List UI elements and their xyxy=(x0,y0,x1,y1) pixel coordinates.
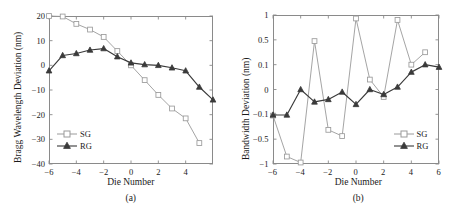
x-tick-label: −2 xyxy=(99,168,108,177)
x-axis-title-a: Die Number xyxy=(14,177,248,187)
filled-triangle-marker-icon xyxy=(394,141,414,151)
x-tick-label: −6 xyxy=(44,168,53,177)
y-tick-label: −1 xyxy=(243,160,269,169)
y-axis-title-a: Bragg Wavelength Deviation (nm) xyxy=(13,32,23,163)
x-tick-label: −4 xyxy=(72,168,81,177)
legend-a: SG RG xyxy=(57,128,92,152)
x-tick-label: 4 xyxy=(409,168,413,177)
legend-item-sg: SG xyxy=(57,128,92,140)
legend-label-rg: RG xyxy=(80,142,92,151)
legend-item-sg: SG xyxy=(394,128,429,140)
panel-a: −6−4−2024−40−30−20−1001020 Bragg Wavelen… xyxy=(0,0,234,212)
legend-b: SG RG xyxy=(394,128,429,152)
panel-label-b: (b) xyxy=(242,193,467,203)
y-axis-title-b: Bandwidth Deviation (nm) xyxy=(241,58,251,160)
legend-item-rg: RG xyxy=(394,140,429,152)
figure-container: −6−4−2024−40−30−20−1001020 Bragg Wavelen… xyxy=(0,0,467,212)
panel-label-a: (a) xyxy=(14,193,248,203)
x-tick-label: 0 xyxy=(129,168,133,177)
x-tick-label: 0 xyxy=(353,168,357,177)
x-tick-label: 2 xyxy=(381,168,385,177)
x-axis-title-b: Die Number xyxy=(242,177,467,187)
legend-label-sg: SG xyxy=(80,130,91,139)
x-tick-label: −4 xyxy=(296,168,305,177)
y-tick-label: 0.5 xyxy=(243,36,269,45)
open-square-marker-icon xyxy=(57,129,77,139)
x-tick-label: 4 xyxy=(184,168,188,177)
y-tick-label: 1 xyxy=(243,11,269,20)
legend-label-sg: SG xyxy=(417,130,428,139)
x-tick-label: −2 xyxy=(323,168,332,177)
filled-triangle-marker-icon xyxy=(57,141,77,151)
x-tick-label: −6 xyxy=(268,168,277,177)
legend-label-rg: RG xyxy=(417,142,429,151)
x-tick-label: 2 xyxy=(156,168,160,177)
y-tick-label: 20 xyxy=(19,12,45,21)
x-tick-label: 6 xyxy=(436,168,440,177)
panel-b: −6−4−20246−1−0.5−0.100.10.51 Bandwidth D… xyxy=(234,0,467,212)
legend-item-rg: RG xyxy=(57,140,92,152)
open-square-marker-icon xyxy=(394,129,414,139)
